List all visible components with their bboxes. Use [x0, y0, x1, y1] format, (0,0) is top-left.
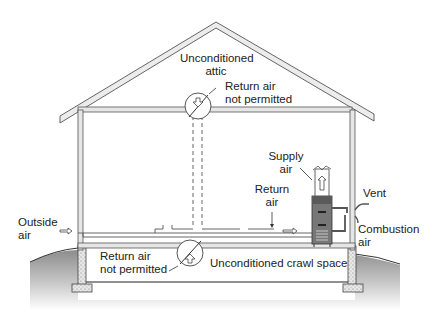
- combustion-line1: Combustion: [358, 223, 419, 236]
- outside-line1: Outside: [18, 216, 58, 229]
- return-air-label: Return air: [250, 183, 294, 209]
- return-line1: Return: [250, 183, 294, 196]
- right-wall: [350, 110, 355, 250]
- crawl-return-label: Return air not permitted: [100, 250, 167, 276]
- attic-no-return-icon: [185, 88, 216, 119]
- crawl-space-label: Unconditioned crawl space: [210, 257, 347, 270]
- ceiling: [78, 107, 352, 112]
- supply-line1: Supply: [262, 150, 310, 163]
- return-chase: [193, 116, 202, 228]
- attic-label: Unconditioned attic: [180, 52, 252, 78]
- attic-return-line1: Return air: [225, 80, 292, 93]
- attic-return-label: Return air not permitted: [225, 80, 292, 106]
- attic-label-line1: Unconditioned: [180, 52, 252, 65]
- combustion-line2: air: [358, 236, 419, 249]
- attic-return-line2: not permitted: [225, 93, 292, 106]
- ductwork: [78, 225, 313, 237]
- outside-air-label: Outside air: [18, 216, 58, 242]
- vent-label: Vent: [363, 187, 386, 200]
- combustion-air-label: Combustion air: [358, 223, 419, 249]
- supply-air-label: Supply air: [262, 150, 310, 176]
- crawl-return-line1: Return air: [100, 250, 167, 263]
- return-line2: air: [250, 196, 294, 209]
- crawl-return-line2: not permitted: [100, 263, 167, 276]
- house-hvac-diagram: [0, 0, 433, 330]
- attic-label-line2: attic: [180, 65, 252, 78]
- supply-line2: air: [262, 163, 310, 176]
- left-wall: [78, 110, 83, 250]
- outside-line2: air: [18, 229, 58, 242]
